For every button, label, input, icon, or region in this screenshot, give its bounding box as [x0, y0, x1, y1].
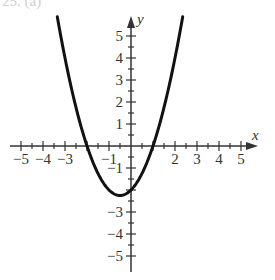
y-tick-label: 1 [116, 116, 124, 132]
y-tick-label: −1 [107, 160, 123, 176]
x-tick-label: 4 [215, 151, 223, 167]
y-tick-label: −4 [107, 226, 123, 242]
x-tick-label: 3 [193, 151, 201, 167]
x-tick-label: −3 [57, 151, 73, 167]
y-tick-label: −3 [107, 204, 123, 220]
function-graph: 25. (a) −5−4−3−1234554321−1−3−4−5 x y [0, 0, 275, 280]
y-tick-label: −5 [107, 248, 123, 264]
y-tick-label: 4 [116, 50, 124, 66]
x-tick-label: 5 [237, 151, 245, 167]
x-axis-label: x [251, 127, 259, 143]
y-tick-label: 2 [116, 94, 124, 110]
y-axis-arrow-icon [127, 16, 135, 28]
x-tick-label: −5 [13, 151, 29, 167]
problem-label: 25. (a) [2, 0, 41, 10]
x-tick-label: −4 [35, 151, 51, 167]
x-axis-arrow-icon [246, 142, 258, 150]
y-tick-label: 3 [116, 72, 124, 88]
x-tick-label: 2 [171, 151, 179, 167]
y-tick-label: 5 [116, 28, 124, 44]
y-axis-label: y [135, 11, 144, 27]
